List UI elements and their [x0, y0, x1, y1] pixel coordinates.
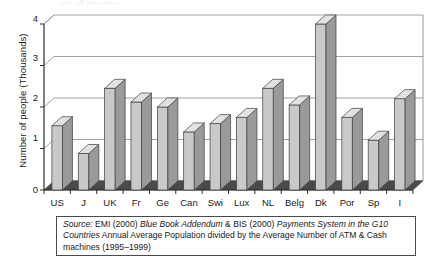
- x-tick-label-belg: Belg: [281, 197, 307, 211]
- bar-sp: [368, 131, 389, 190]
- x-tick-label-lux: Lux: [229, 197, 255, 211]
- bar-j: [78, 144, 99, 190]
- caption-text-1a: EMI (2000): [93, 219, 140, 229]
- bar-uk: [105, 79, 126, 190]
- caption-text-2: Annual Average Population divided by the…: [63, 230, 387, 251]
- bar-lux: [236, 108, 257, 190]
- x-axis-tick-labels: US J UK Fr Ge Can Swi Lux NL Belg Dk Por…: [44, 197, 413, 211]
- x-tick-label-sp: Sp: [360, 197, 386, 211]
- bar-por: [342, 108, 363, 190]
- bar-dk: [315, 15, 336, 190]
- bar-ge: [157, 98, 178, 190]
- x-tick-label-j: J: [70, 197, 96, 211]
- caption-source-label: Source:: [63, 219, 93, 229]
- x-tick-label-swi: Swi: [202, 197, 228, 211]
- plot-floor: [44, 181, 423, 190]
- x-tick-label-fr: Fr: [123, 197, 149, 211]
- gridline-depth-y-2: [44, 98, 54, 107]
- bar-us: [52, 117, 73, 190]
- bar-belg: [289, 96, 310, 190]
- x-tick-label-ge: Ge: [149, 197, 175, 211]
- x-tick-label-por: Por: [334, 197, 360, 211]
- caption-italic-blue-book: Blue Book Addendum: [140, 219, 223, 229]
- chart-figure: cut off heading Number of people (Thousa…: [0, 0, 425, 268]
- bar-can: [184, 123, 205, 190]
- x-tick-label-nl: NL: [255, 197, 281, 211]
- x-tick-label-us: US: [44, 197, 70, 211]
- gridline-depth-y-3: [44, 57, 54, 66]
- x-tick-label-uk: UK: [97, 197, 123, 211]
- x-tick-label-can: Can: [176, 197, 202, 211]
- bar-i: [395, 90, 416, 190]
- bar-fr: [131, 93, 152, 190]
- x-tick-label-i: I: [387, 197, 413, 211]
- x-tick-label-dk: Dk: [308, 197, 334, 211]
- y-axis-top-depth: [44, 15, 54, 24]
- bar-swi: [210, 115, 231, 190]
- bar-nl: [263, 79, 284, 190]
- caption-text-1b: & BIS (2000): [223, 219, 277, 229]
- source-caption: Source: EMI (2000) Blue Book Addendum & …: [56, 216, 416, 256]
